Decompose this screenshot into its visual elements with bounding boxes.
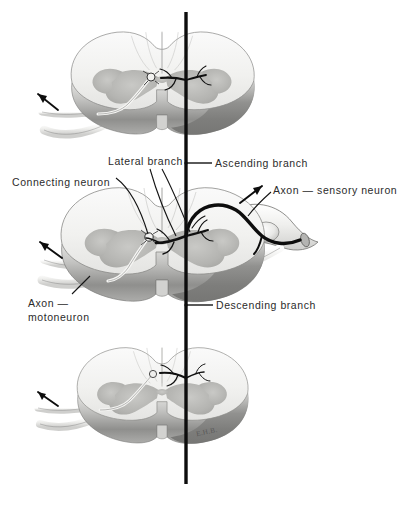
label-connecting-neuron: Connecting neuron [12,176,110,190]
arrow-lower-motor [38,392,58,406]
arrow-upper-motor [38,94,58,110]
upper-spinal-cord-segment [38,31,254,134]
label-descending-branch: Descending branch [216,299,316,313]
arrow-sensory-in [240,186,262,203]
arrow-middle-motor [40,242,62,258]
label-axon-sensory-neuron: Axon — sensory neuron [273,184,397,198]
label-axon-motoneuron-line2: motoneuron [28,311,90,323]
spinal-cord-reflex-figure: Connecting neuron Lateral branch Ascendi… [0,0,404,507]
label-ascending-branch: Ascending branch [215,157,308,171]
label-axon-motoneuron: Axon — motoneuron [28,297,90,324]
label-axon-motoneuron-line1: Axon — [28,297,69,309]
label-lateral-branch: Lateral branch [108,155,183,169]
